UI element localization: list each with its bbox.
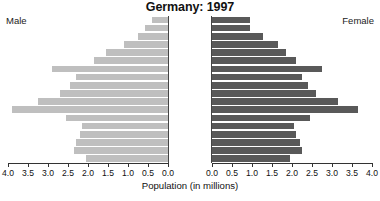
axis-tick xyxy=(48,163,49,167)
axis-tick xyxy=(168,163,169,167)
female-bar xyxy=(212,155,290,162)
female-bar xyxy=(212,139,300,146)
axis-tick xyxy=(352,163,353,167)
female-bar xyxy=(212,57,296,64)
male-bar xyxy=(66,115,168,122)
female-bar xyxy=(212,90,316,97)
axis-tick xyxy=(128,163,129,167)
axis-tick xyxy=(28,163,29,167)
female-bar xyxy=(212,17,250,24)
male-bar xyxy=(52,66,168,73)
female-bar xyxy=(212,82,308,89)
female-bar xyxy=(212,131,296,138)
male-bar xyxy=(106,49,168,56)
male-bar xyxy=(94,57,168,64)
male-bar xyxy=(74,147,168,154)
female-bar xyxy=(212,49,286,56)
female-bar xyxy=(212,74,302,81)
female-bar xyxy=(212,33,263,40)
axis-tick xyxy=(372,163,373,167)
axis-tick xyxy=(212,163,213,167)
axis-tick xyxy=(232,163,233,167)
male-bar xyxy=(80,131,168,138)
age-label-gutter xyxy=(168,16,212,163)
male-bar xyxy=(152,17,168,24)
male-bar xyxy=(12,106,168,113)
axis-tick xyxy=(332,163,333,167)
axis-tick xyxy=(68,163,69,167)
axis-tick xyxy=(312,163,313,167)
axis-tick xyxy=(8,163,9,167)
male-bar xyxy=(124,41,168,48)
axis-tick xyxy=(292,163,293,167)
axis-tick-label: 4.0 xyxy=(359,168,380,178)
male-bar xyxy=(145,25,168,32)
axis-tick-label: 4.0 xyxy=(0,168,21,178)
population-pyramid-chart: Germany: 1997 Male Female 85+80-8475-797… xyxy=(0,0,380,201)
female-bar xyxy=(212,66,322,73)
female-bar xyxy=(212,147,302,154)
axis-tick xyxy=(88,163,89,167)
axis-tick xyxy=(252,163,253,167)
male-bar xyxy=(70,82,168,89)
male-bar xyxy=(76,139,168,146)
male-bar xyxy=(60,90,168,97)
female-bar xyxy=(212,98,338,105)
x-axis-title: Population (in millions) xyxy=(0,180,380,191)
female-bar xyxy=(212,123,294,130)
female-bar xyxy=(212,106,358,113)
male-bar xyxy=(86,155,168,162)
male-bar xyxy=(82,123,168,130)
male-bar xyxy=(38,98,168,105)
male-bar xyxy=(138,33,168,40)
axis-tick xyxy=(272,163,273,167)
female-bar xyxy=(212,115,310,122)
axis-tick xyxy=(148,163,149,167)
male-bar xyxy=(76,74,168,81)
female-bar xyxy=(212,41,278,48)
female-bar xyxy=(212,25,250,32)
chart-title: Germany: 1997 xyxy=(0,0,380,14)
axis-tick xyxy=(108,163,109,167)
